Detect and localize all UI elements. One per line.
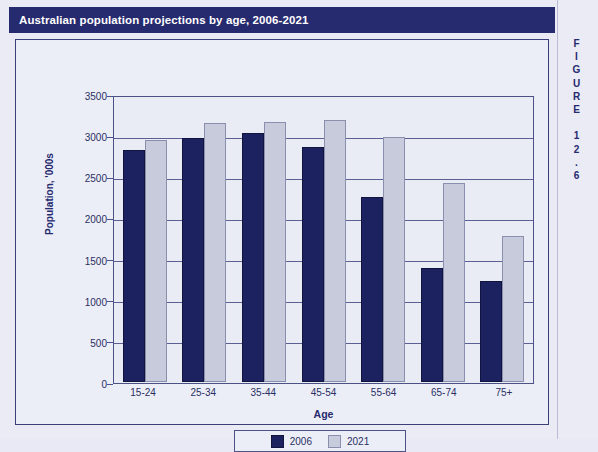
- y-axis-title: Population, '000s: [44, 153, 55, 235]
- x-axis-tick-labels: 15-2425-3435-4445-5455-6465-7475+: [113, 387, 534, 403]
- bar-group: [294, 97, 354, 382]
- y-axis-tick-label: 1000: [85, 296, 107, 307]
- bar-2006-75+: [480, 281, 502, 382]
- legend-label-2006: 2006: [290, 436, 312, 447]
- legend-item-2021: 2021: [328, 435, 369, 448]
- y-axis-tick-label: 2000: [85, 214, 107, 225]
- x-axis-title: Age: [113, 408, 534, 420]
- bar-2006-45-54: [302, 147, 324, 382]
- bar-group: [413, 97, 473, 382]
- legend-swatch-2006: [271, 435, 284, 448]
- bar-2021-35-44: [264, 122, 286, 382]
- legend-label-2021: 2021: [347, 436, 369, 447]
- bar-2021-55-64: [383, 137, 405, 382]
- bar-group: [353, 97, 413, 382]
- bar-2006-55-64: [361, 197, 383, 382]
- chart-legend: 2006 2021: [234, 430, 406, 452]
- bar-2006-15-24: [123, 150, 145, 382]
- chart-card: Population, '000s 0500100015002000250030…: [9, 34, 555, 430]
- figure-title: Australian population projections by age…: [9, 14, 308, 26]
- x-axis-tick-label: 45-54: [293, 387, 353, 403]
- bar-2021-65-74: [443, 183, 465, 382]
- bar-groups: [115, 97, 532, 382]
- y-axis-tick-labels: 0500100015002000250030003500: [57, 96, 107, 384]
- bar-group: [175, 97, 235, 382]
- bar-2006-65-74: [421, 268, 443, 382]
- bar-2021-25-34: [204, 123, 226, 382]
- bar-group: [234, 97, 294, 382]
- bar-2006-25-34: [182, 138, 204, 382]
- plot-area-wrapper: [113, 96, 534, 384]
- bar-2021-75+: [502, 236, 524, 382]
- x-axis-tick-label: 75+: [474, 387, 534, 403]
- bar-2006-35-44: [242, 133, 264, 382]
- page-side-rule: [557, 0, 558, 439]
- y-axis-tick-label: 1500: [85, 255, 107, 266]
- y-axis-tick-label: 3500: [85, 91, 107, 102]
- bar-2021-15-24: [145, 140, 167, 382]
- x-axis-tick-label: 65-74: [414, 387, 474, 403]
- x-axis-tick-label: 35-44: [233, 387, 293, 403]
- x-axis-tick-label: 15-24: [113, 387, 173, 403]
- figure-number-tab: FIGURE 12.6: [560, 38, 592, 253]
- figure-title-bar: Australian population projections by age…: [9, 7, 555, 33]
- bar-group: [115, 97, 175, 382]
- x-axis-tick-label: 55-64: [354, 387, 414, 403]
- bar-group: [472, 97, 532, 382]
- y-axis-tick-label: 3000: [85, 132, 107, 143]
- y-axis-tick-label: 500: [90, 337, 107, 348]
- figure-number-label: FIGURE 12.6: [571, 38, 581, 183]
- legend-item-2006: 2006: [271, 435, 312, 448]
- x-axis-tick-label: 25-34: [173, 387, 233, 403]
- bar-2021-45-54: [324, 120, 346, 382]
- y-axis-tick-label: 2500: [85, 173, 107, 184]
- plot-area: [113, 96, 534, 384]
- legend-swatch-2021: [328, 435, 341, 448]
